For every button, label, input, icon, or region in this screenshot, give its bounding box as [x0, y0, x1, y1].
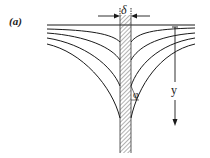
delta-label: δ	[121, 4, 127, 16]
depth-arrow	[172, 27, 178, 126]
panel-label: (a)	[9, 16, 22, 27]
y-axis-label: y	[171, 84, 177, 96]
wall	[120, 15, 131, 153]
phi-label: φ	[133, 90, 139, 100]
left-curves	[47, 29, 120, 118]
diagram-canvas	[0, 0, 210, 158]
right-curves	[131, 28, 195, 118]
